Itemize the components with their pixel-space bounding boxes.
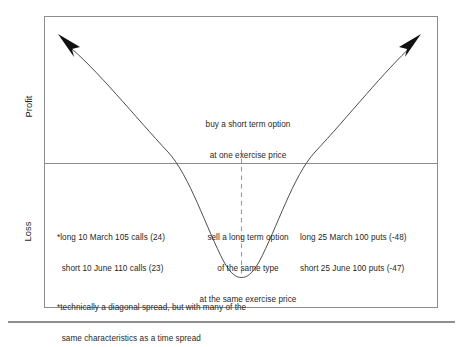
axis-label-profit: Profit: [23, 77, 34, 137]
footnote-annotation: *technically a diagonal spread, but with…: [57, 282, 246, 347]
strategy-line: sell a long term option: [186, 233, 310, 243]
axis-label-loss: Loss: [22, 202, 33, 262]
strategy-line: at one exercise price: [186, 151, 310, 161]
strategy-line: buy a short term option: [186, 120, 310, 130]
footnote-line: same characteristics as a time spread: [57, 334, 246, 344]
example-line: *long 10 March 105 calls (24): [57, 233, 165, 243]
example-line: short 25 June 100 puts (-47): [300, 264, 407, 274]
example-line: short 10 June 110 calls (23): [57, 264, 165, 274]
example-line: long 25 March 100 puts (-48): [300, 233, 407, 243]
footnote-line: *technically a diagonal spread, but with…: [57, 303, 246, 313]
right-arrowhead-icon: [399, 34, 421, 57]
strategy-description-buy-block: buy a short term option at one exercise …: [186, 99, 310, 182]
strategy-line: of the same type: [186, 264, 310, 274]
right-example-annotation: long 25 March 100 puts (-48) short 25 Ju…: [300, 212, 407, 295]
